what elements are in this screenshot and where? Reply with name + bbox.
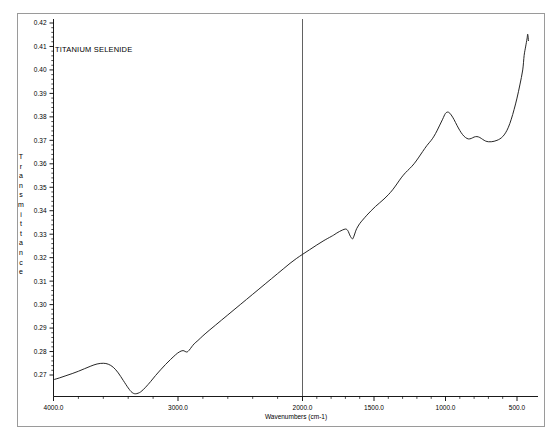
- y-axis-title-letter: t: [20, 230, 22, 237]
- y-tick-label: 0.40: [34, 66, 47, 73]
- spectrum-trace-line: [54, 34, 529, 394]
- x-tick-label: 1500.0: [364, 404, 384, 411]
- spectrum-page: 0.270.280.290.300.310.320.330.340.350.36…: [0, 0, 559, 440]
- y-axis-title-letter: T: [19, 153, 24, 160]
- y-axis-tick-labels: 0.270.280.290.300.310.320.330.340.350.36…: [34, 19, 47, 378]
- y-tick-label: 0.42: [34, 19, 47, 26]
- y-axis-title: Transmittance: [18, 153, 24, 275]
- y-tick-label: 0.36: [34, 160, 47, 167]
- x-tick-label: 1000.0: [436, 404, 456, 411]
- x-tick-label: 3000.0: [168, 404, 188, 411]
- chart-axes: [54, 19, 539, 397]
- y-tick-label: 0.33: [34, 231, 47, 238]
- sample-title: TITANIUM SELENIDE: [55, 45, 132, 54]
- y-axis-title-letter: n: [19, 249, 23, 256]
- y-tick-label: 0.34: [34, 207, 47, 214]
- y-axis-title-letter: s: [19, 191, 23, 198]
- y-tick-label: 0.37: [34, 137, 47, 144]
- x-axis-tick-labels: 4000.03000.02000.01500.01000.0500.0: [44, 404, 526, 411]
- y-axis-title-letter: e: [19, 268, 23, 275]
- y-tick-label: 0.30: [34, 301, 47, 308]
- y-tick-label: 0.29: [34, 324, 47, 331]
- x-tick-label: 4000.0: [44, 404, 64, 411]
- x-axis-ticks: [54, 397, 518, 402]
- y-axis-ticks: [50, 23, 54, 375]
- ir-spectrum-chart: 0.270.280.290.300.310.320.330.340.350.36…: [0, 0, 559, 440]
- y-tick-label: 0.28: [34, 348, 47, 355]
- y-axis-title-letter: t: [20, 220, 22, 227]
- x-tick-label: 2000.0: [293, 404, 313, 411]
- y-axis-title-letter: a: [19, 239, 23, 246]
- y-tick-label: 0.27: [34, 371, 47, 378]
- y-axis-title-letter: m: [18, 201, 24, 208]
- y-axis-title-letter: n: [19, 182, 23, 189]
- y-tick-label: 0.35: [34, 184, 47, 191]
- x-axis-title: Wavenumbers (cm-1): [265, 413, 327, 421]
- y-tick-label: 0.38: [34, 113, 47, 120]
- y-axis-title-letter: a: [19, 172, 23, 179]
- y-tick-label: 0.39: [34, 90, 47, 97]
- y-axis-title-letter: r: [20, 163, 23, 170]
- x-tick-label: 500.0: [509, 404, 526, 411]
- y-tick-label: 0.32: [34, 254, 47, 261]
- y-axis-title-letter: i: [20, 211, 22, 218]
- y-tick-label: 0.41: [34, 43, 47, 50]
- y-axis-title-letter: c: [19, 259, 23, 266]
- y-tick-label: 0.31: [34, 278, 47, 285]
